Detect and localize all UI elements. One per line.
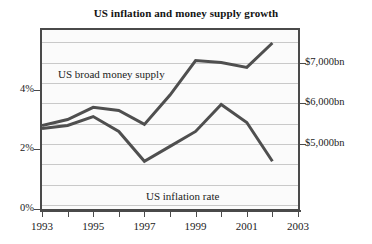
x-axis-tick (298, 211, 299, 217)
x-axis-tick (221, 211, 222, 217)
x-axis-tick-label: 1993 (22, 220, 62, 232)
right-axis-tick-label: $6,000bn (305, 96, 344, 107)
left-axis-tick (34, 149, 40, 150)
x-axis-tick (42, 211, 43, 217)
x-axis-tick (93, 211, 94, 217)
x-axis-tick (68, 211, 69, 217)
chart-title: US inflation and money supply growth (0, 7, 372, 19)
right-axis-tick-label: $7,000bn (305, 56, 344, 67)
annotation-money-supply: US broad money supply (58, 68, 165, 80)
x-axis-tick (144, 211, 145, 217)
right-axis-tick (300, 103, 306, 104)
line-us-broad-money-supply (42, 43, 272, 126)
x-axis-tick (247, 211, 248, 217)
chart-figure: US inflation and money supply growth US … (0, 0, 372, 244)
x-axis-tick-label: 1999 (176, 220, 216, 232)
left-axis-tick-label: 4% (0, 83, 34, 94)
line-us-inflation-rate (42, 105, 272, 162)
x-axis-tick-label: 2001 (227, 220, 267, 232)
x-axis-tick (119, 211, 120, 217)
x-axis-tick-label: 1995 (73, 220, 113, 232)
right-axis-tick (300, 63, 306, 64)
right-axis-tick-label: $5,000bn (305, 137, 344, 148)
x-axis-tick-label: 2003 (278, 220, 318, 232)
x-axis-tick (196, 211, 197, 217)
series-lines (42, 30, 298, 209)
left-axis-tick-label: 2% (0, 142, 34, 153)
left-axis-tick-label: 0% (0, 202, 34, 213)
x-axis-tick (272, 211, 273, 217)
x-axis-tick-label: 1997 (124, 220, 164, 232)
plot-area (40, 28, 300, 211)
right-axis-tick (300, 144, 306, 145)
left-axis-tick (34, 90, 40, 91)
x-axis-tick (170, 211, 171, 217)
annotation-inflation-rate: US inflation rate (146, 190, 219, 202)
